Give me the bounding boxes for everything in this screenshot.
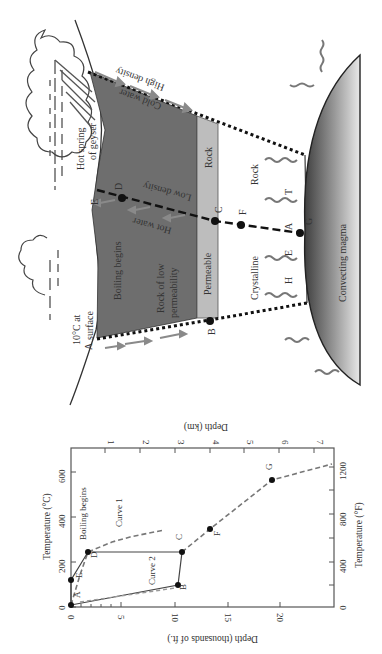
chart-point-c: C (174, 534, 184, 540)
small-cloud-icon (19, 235, 58, 320)
point-a: A (83, 342, 94, 350)
y2-tick-400: 400 (338, 559, 348, 573)
y2-tick-0: 0 (338, 605, 348, 610)
y-tick-600: 600 (57, 469, 67, 483)
label-permeable: Permeable (202, 252, 213, 295)
label-rock-low-perm: Rock of low (155, 263, 166, 313)
point-e: E (89, 199, 100, 205)
point-b: B (206, 328, 217, 335)
point-d: D (113, 183, 124, 190)
curve-2 (71, 552, 182, 605)
label-hot-spring: Hot spring (75, 128, 86, 171)
x-axis-title: Depth (thousands of ft.) (167, 633, 258, 644)
x-ticks (71, 448, 334, 607)
annotation-curve-1: Curve 1 (114, 498, 124, 527)
x2-tick-5: 5 (245, 440, 255, 445)
chart-point-e: E (74, 572, 84, 578)
label-hot-spring-2: of geyser (87, 122, 98, 160)
point-c: C (213, 206, 224, 213)
chart-point-d: D (89, 551, 99, 558)
point-g: G (303, 218, 314, 225)
x2-axis-title: Depth (km) (184, 421, 228, 432)
chart-point-b: B (178, 584, 188, 590)
label-boiling-begins: Boiling begins (112, 241, 123, 300)
x2-tick-6: 6 (280, 440, 290, 445)
y-tick-200: 200 (57, 559, 67, 573)
x-tick-10: 10 (170, 613, 180, 623)
chart-point-f: F (212, 531, 222, 536)
x-tick-20: 20 (275, 613, 285, 623)
y2-tick-1200: 1200 (338, 462, 348, 481)
y2-tick-800: 800 (338, 512, 348, 526)
label-magma: Convecting magma (337, 223, 348, 302)
y-tick-0: 0 (57, 605, 67, 610)
label-surface-temp-2: surface (84, 311, 95, 340)
chart-point-g: G (264, 463, 274, 470)
y-axis-title: Temperature (°C) (42, 493, 53, 560)
heat-letter-h: H (283, 277, 294, 284)
geothermal-figure: 10°C at surface Hot spring of geyser Hig… (0, 0, 382, 654)
x-tick-15: 15 (223, 613, 233, 623)
low-permeability-rock (90, 72, 197, 338)
depth-temperature-chart: 0 5 10 15 20 1 2 3 4 5 6 7 0 200 400 600… (42, 421, 365, 644)
point-f: F (237, 209, 248, 215)
geothermal-cross-section: 10°C at surface Hot spring of geyser Hig… (19, 20, 360, 405)
x2-tick-3: 3 (176, 440, 186, 445)
x-tick-5: 5 (116, 615, 126, 620)
x-tick-0: 0 (66, 615, 76, 620)
x2-tick-1: 1 (106, 440, 116, 445)
x2-tick-2: 2 (141, 440, 151, 445)
label-rock-low-perm-2: permeability (168, 267, 179, 318)
label-surface-temp: 10°C at (71, 314, 82, 345)
x2-tick-7: 7 (315, 440, 325, 445)
deep-gradient (182, 464, 332, 552)
heat-letter-t: T (283, 189, 294, 195)
x2-tick-4: 4 (211, 440, 221, 445)
plot-frame (71, 448, 334, 607)
chart-point-a: A (72, 591, 82, 598)
annotation-boiling: Boiling begins (78, 487, 88, 540)
annotation-curve-2: Curve 2 (147, 556, 157, 585)
label-rock-lower: Rock (249, 164, 260, 185)
heat-letter-a: A (283, 222, 294, 230)
y2-axis-title: Temperature (°F) (354, 502, 365, 568)
y-tick-400: 400 (57, 514, 67, 528)
label-rock-band: Rock (203, 147, 214, 168)
label-crystalline: Crystalline (249, 256, 260, 300)
heat-letter-e: E (283, 250, 294, 256)
